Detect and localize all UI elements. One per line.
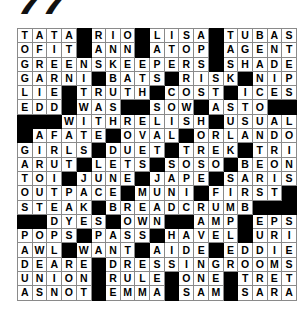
crossword-letter-cell[interactable]: E — [76, 214, 91, 228]
crossword-letter-cell[interactable]: I — [47, 43, 62, 57]
crossword-letter-cell[interactable]: S — [223, 171, 238, 185]
crossword-letter-cell[interactable]: U — [120, 272, 135, 286]
crossword-letter-cell[interactable]: A — [179, 229, 194, 243]
crossword-letter-cell[interactable]: L — [150, 29, 165, 43]
crossword-letter-cell[interactable]: R — [32, 57, 47, 71]
crossword-letter-cell[interactable]: S — [135, 157, 150, 171]
crossword-letter-cell[interactable]: T — [135, 71, 150, 85]
crossword-letter-cell[interactable]: A — [150, 129, 165, 143]
crossword-letter-cell[interactable]: U — [223, 114, 238, 128]
crossword-letter-cell[interactable]: L — [18, 86, 33, 100]
crossword-letter-cell[interactable]: E — [47, 86, 62, 100]
crossword-letter-cell[interactable]: I — [164, 29, 179, 43]
crossword-letter-cell[interactable]: S — [179, 29, 194, 43]
crossword-letter-cell[interactable]: E — [252, 43, 267, 57]
crossword-letter-cell[interactable]: T — [267, 186, 282, 200]
crossword-letter-cell[interactable]: E — [32, 257, 47, 271]
crossword-letter-cell[interactable]: A — [267, 114, 282, 128]
crossword-letter-cell[interactable]: S — [223, 57, 238, 71]
crossword-letter-cell[interactable]: P — [150, 57, 165, 71]
crossword-letter-cell[interactable]: O — [120, 214, 135, 228]
crossword-letter-cell[interactable]: A — [91, 43, 106, 57]
crossword-letter-cell[interactable]: K — [223, 71, 238, 85]
crossword-letter-cell[interactable]: O — [194, 129, 209, 143]
crossword-letter-cell[interactable]: E — [252, 157, 267, 171]
crossword-letter-cell[interactable]: R — [47, 143, 62, 157]
crossword-letter-cell[interactable]: A — [91, 243, 106, 257]
crossword-letter-cell[interactable]: G — [18, 57, 33, 71]
crossword-letter-cell[interactable]: V — [194, 229, 209, 243]
crossword-letter-cell[interactable]: H — [164, 229, 179, 243]
crossword-letter-cell[interactable]: E — [62, 57, 77, 71]
crossword-letter-cell[interactable]: E — [47, 57, 62, 71]
crossword-letter-cell[interactable]: R — [179, 71, 194, 85]
crossword-letter-cell[interactable]: A — [62, 129, 77, 143]
crossword-letter-cell[interactable]: E — [150, 272, 165, 286]
crossword-letter-cell[interactable]: K — [223, 143, 238, 157]
crossword-letter-cell[interactable]: W — [76, 243, 91, 257]
crossword-letter-cell[interactable]: R — [238, 186, 253, 200]
crossword-letter-cell[interactable]: S — [164, 157, 179, 171]
crossword-letter-cell[interactable]: N — [62, 71, 77, 85]
crossword-letter-cell[interactable]: T — [62, 157, 77, 171]
crossword-letter-cell[interactable]: T — [62, 43, 77, 57]
crossword-letter-cell[interactable]: S — [282, 171, 297, 185]
crossword-letter-cell[interactable]: D — [106, 257, 121, 271]
crossword-letter-cell[interactable]: A — [252, 57, 267, 71]
crossword-letter-cell[interactable]: A — [120, 71, 135, 85]
crossword-letter-cell[interactable]: R — [267, 143, 282, 157]
crossword-letter-cell[interactable]: T — [47, 186, 62, 200]
crossword-letter-cell[interactable]: N — [76, 272, 91, 286]
crossword-letter-cell[interactable]: C — [164, 86, 179, 100]
crossword-letter-cell[interactable]: L — [62, 143, 77, 157]
crossword-letter-cell[interactable]: K — [106, 57, 121, 71]
crossword-letter-cell[interactable]: E — [18, 100, 33, 114]
crossword-letter-cell[interactable]: S — [282, 29, 297, 43]
crossword-letter-cell[interactable]: O — [267, 157, 282, 171]
crossword-letter-cell[interactable]: E — [282, 243, 297, 257]
crossword-letter-cell[interactable]: S — [252, 186, 267, 200]
crossword-letter-cell[interactable]: E — [120, 57, 135, 71]
crossword-letter-cell[interactable]: E — [135, 257, 150, 271]
crossword-letter-cell[interactable]: R — [62, 257, 77, 271]
crossword-letter-cell[interactable]: S — [282, 86, 297, 100]
crossword-letter-cell[interactable]: E — [252, 214, 267, 228]
crossword-letter-cell[interactable]: E — [135, 57, 150, 71]
crossword-letter-cell[interactable]: N — [32, 272, 47, 286]
crossword-letter-cell[interactable]: O — [120, 129, 135, 143]
crossword-letter-cell[interactable]: I — [194, 71, 209, 85]
crossword-letter-cell[interactable]: I — [267, 71, 282, 85]
crossword-letter-cell[interactable]: T — [252, 143, 267, 157]
crossword-letter-cell[interactable]: R — [267, 229, 282, 243]
crossword-letter-cell[interactable]: D — [179, 243, 194, 257]
crossword-letter-cell[interactable]: S — [76, 143, 91, 157]
crossword-letter-cell[interactable]: D — [18, 257, 33, 271]
crossword-letter-cell[interactable]: S — [62, 229, 77, 243]
crossword-letter-cell[interactable]: E — [76, 257, 91, 271]
crossword-letter-cell[interactable]: A — [32, 29, 47, 43]
crossword-letter-cell[interactable]: P — [18, 229, 33, 243]
crossword-letter-cell[interactable]: F — [47, 129, 62, 143]
crossword-letter-cell[interactable]: R — [91, 86, 106, 100]
crossword-letter-cell[interactable]: A — [238, 129, 253, 143]
crossword-letter-cell[interactable]: S — [194, 86, 209, 100]
crossword-letter-cell[interactable]: A — [32, 129, 47, 143]
crossword-letter-cell[interactable]: O — [32, 229, 47, 243]
crossword-letter-cell[interactable]: M — [135, 186, 150, 200]
crossword-letter-cell[interactable]: I — [179, 186, 194, 200]
crossword-letter-cell[interactable]: H — [106, 114, 121, 128]
crossword-letter-cell[interactable]: U — [106, 86, 121, 100]
crossword-letter-cell[interactable]: R — [194, 143, 209, 157]
crossword-letter-cell[interactable]: T — [150, 143, 165, 157]
crossword-letter-cell[interactable]: D — [47, 214, 62, 228]
crossword-letter-cell[interactable]: O — [282, 129, 297, 143]
crossword-letter-cell[interactable]: U — [18, 272, 33, 286]
crossword-letter-cell[interactable]: O — [164, 100, 179, 114]
crossword-letter-cell[interactable]: I — [76, 71, 91, 85]
crossword-letter-cell[interactable]: U — [208, 200, 223, 214]
crossword-letter-cell[interactable]: C — [179, 200, 194, 214]
crossword-letter-cell[interactable]: R — [120, 200, 135, 214]
crossword-letter-cell[interactable]: E — [208, 143, 223, 157]
crossword-letter-cell[interactable]: H — [194, 114, 209, 128]
crossword-letter-cell[interactable]: E — [164, 57, 179, 71]
